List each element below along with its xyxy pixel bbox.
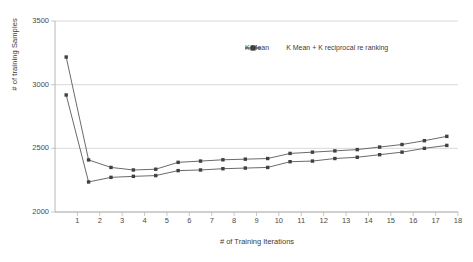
data-point-marker: [400, 150, 403, 153]
data-point-marker: [333, 157, 336, 160]
data-point-marker: [288, 152, 291, 155]
data-point-marker: [132, 168, 135, 171]
data-point-marker: [445, 144, 448, 147]
data-point-marker: [311, 150, 314, 153]
data-point-marker: [244, 157, 247, 160]
data-point-marker: [423, 147, 426, 150]
data-point-marker: [356, 148, 359, 151]
plot-area: [0, 0, 473, 262]
data-point-marker: [288, 160, 291, 163]
data-point-marker: [176, 161, 179, 164]
data-point-marker: [109, 166, 112, 169]
data-point-marker: [400, 143, 403, 146]
data-point-marker: [109, 176, 112, 179]
data-point-marker: [87, 180, 90, 183]
data-point-marker: [244, 166, 247, 169]
data-point-marker: [423, 139, 426, 142]
data-point-marker: [266, 166, 269, 169]
data-point-marker: [221, 167, 224, 170]
data-point-marker: [87, 158, 90, 161]
data-point-marker: [176, 169, 179, 172]
data-point-marker: [311, 159, 314, 162]
data-point-marker: [154, 168, 157, 171]
data-point-marker: [64, 55, 67, 58]
data-point-marker: [266, 157, 269, 160]
data-point-marker: [333, 149, 336, 152]
data-point-marker: [154, 174, 157, 177]
data-point-marker: [445, 135, 448, 138]
data-point-marker: [132, 175, 135, 178]
data-point-marker: [64, 93, 67, 96]
series-line-1: [66, 57, 447, 170]
data-point-marker: [378, 153, 381, 156]
chart-container: # of training Samples # of Training Iter…: [0, 0, 473, 262]
data-point-marker: [199, 168, 202, 171]
data-point-marker: [199, 159, 202, 162]
data-point-marker: [378, 145, 381, 148]
data-point-marker: [221, 158, 224, 161]
data-point-marker: [356, 156, 359, 159]
